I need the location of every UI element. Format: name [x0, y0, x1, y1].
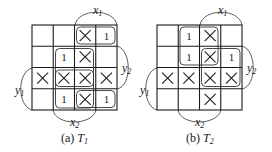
karnaugh-maps-figure: 1111 x1 y2 y1 x2 (a) T1 111 x1 [0, 0, 272, 152]
y1-label: y1 [14, 83, 24, 98]
caption-t2: (b) T2 [186, 131, 214, 146]
x1-label: x1 [217, 3, 227, 18]
caption-t1: (a) T1 [61, 131, 88, 146]
cell-value: 1 [104, 93, 110, 105]
y2-label: y2 [246, 61, 256, 76]
x1-label: x1 [92, 3, 102, 18]
y1-label: y1 [139, 83, 149, 98]
cell-value: 1 [186, 51, 192, 63]
cell-value: 1 [186, 30, 192, 42]
cell-value: 1 [61, 93, 67, 105]
x2-label: x2 [194, 115, 204, 130]
cell-value: 1 [61, 51, 67, 63]
x2-label: x2 [69, 115, 79, 130]
kmap-grid [157, 25, 242, 110]
kmap-t2: 111 x1 y2 y1 x2 (b) T2 [139, 3, 256, 146]
cell-value: 1 [104, 30, 110, 42]
y2-label: y2 [121, 61, 131, 76]
kmap-t1: 1111 x1 y2 y1 x2 (a) T1 [14, 3, 131, 146]
cell-value: 1 [229, 51, 235, 63]
